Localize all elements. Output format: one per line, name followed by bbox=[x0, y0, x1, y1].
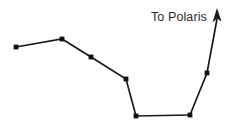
star-marker-handle-bend bbox=[60, 37, 65, 42]
star-marker-handle-mid bbox=[89, 55, 94, 60]
star-marker-handle-join bbox=[124, 77, 129, 82]
star-chart-diagram: To Polaris bbox=[0, 0, 234, 133]
polaris-label: To Polaris bbox=[151, 11, 207, 24]
star-marker-bowl-bottom-left bbox=[134, 114, 139, 119]
star-marker-pointer bbox=[205, 71, 210, 76]
star-marker-handle-end bbox=[14, 45, 19, 50]
star-marker-bowl-bottom-right bbox=[188, 113, 193, 118]
